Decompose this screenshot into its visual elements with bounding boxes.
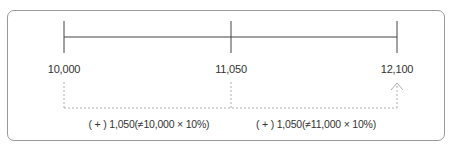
point-label-1: 10,000 xyxy=(48,63,80,75)
point-label-2: 11,050 xyxy=(215,63,247,75)
point-label-3: 12,100 xyxy=(381,63,413,75)
increment-bracket xyxy=(64,82,397,108)
increment-label-2: ( + ) 1,050(≠11,000 × 10%) xyxy=(256,118,376,130)
increment-label-1: ( + ) 1,050(≠10,000 × 10%) xyxy=(89,118,210,130)
number-line-graphic xyxy=(0,0,459,150)
